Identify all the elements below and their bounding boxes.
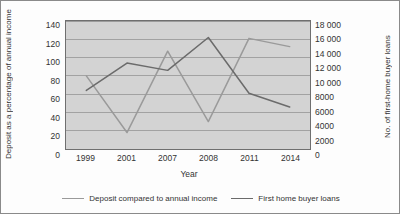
left-tick-label: 140 [46, 20, 60, 30]
right-tick-label: 8000 [315, 92, 334, 102]
legend-item-label: First home buyer loans [258, 194, 339, 203]
right-tick-label: 4000 [315, 121, 334, 131]
left-axis-title: Deposit as a percentage of annual income [5, 9, 25, 159]
right-tick-label: 16 000 [315, 34, 341, 44]
plot-svg [66, 21, 310, 149]
left-tick-label: 0 [55, 150, 60, 160]
legend-line-swatch [231, 198, 253, 199]
x-tick-label: 2011 [240, 153, 258, 163]
x-axis-title: Year [65, 169, 313, 179]
right-tick-label: 0 [315, 150, 320, 160]
series-line [86, 37, 289, 106]
plot-area [65, 20, 311, 150]
left-tick-label: 40 [51, 113, 60, 123]
right-tick-label: 18 000 [315, 20, 341, 30]
legend-item[interactable]: First home buyer loans [231, 194, 339, 203]
chart-legend: Deposit compared to annual incomeFirst h… [1, 191, 400, 205]
right-tick-label: 6000 [315, 107, 334, 117]
left-tick-label: 20 [51, 131, 60, 141]
left-tick-label: 60 [51, 94, 60, 104]
right-tick-label: 2000 [315, 136, 334, 146]
left-tick-label: 80 [51, 76, 60, 86]
x-axis-tick-labels: 199920012007200820112014 [65, 153, 313, 167]
series-line [86, 38, 289, 132]
right-axis-title: No. of first-home buyer loans [384, 9, 396, 164]
left-tick-label: 120 [46, 39, 60, 49]
right-tick-label: 12 000 [315, 63, 341, 73]
legend-item-label: Deposit compared to annual income [89, 194, 217, 203]
left-tick-label: 100 [46, 57, 60, 67]
legend-line-swatch [62, 198, 84, 199]
x-tick-label: 1999 [76, 153, 95, 163]
x-tick-label: 2014 [281, 153, 300, 163]
right-tick-label: 10 000 [315, 78, 341, 88]
x-tick-label: 2008 [199, 153, 218, 163]
legend-item[interactable]: Deposit compared to annual income [62, 194, 217, 203]
x-tick-label: 2001 [117, 153, 136, 163]
series-lines [86, 37, 289, 132]
right-axis-tick-labels: 18 00016 00014 00012 00010 0008000600040… [311, 15, 357, 151]
right-tick-label: 14 000 [315, 49, 341, 59]
x-tick-label: 2007 [158, 153, 177, 163]
chart-figure: Deposit as a percentage of annual income… [0, 0, 400, 214]
left-axis-tick-labels: 140120100806040200 [27, 15, 63, 151]
